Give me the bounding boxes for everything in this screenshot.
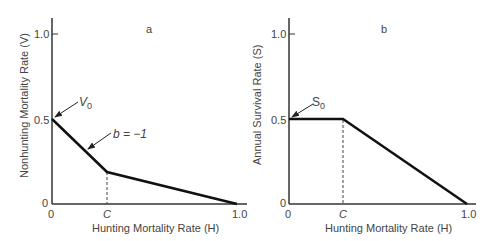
x-tick-label-0: 0: [48, 208, 54, 220]
panel-label: a: [146, 23, 153, 35]
s-curve: [289, 119, 467, 204]
s0-arrow: [292, 104, 313, 117]
slope-arrow: [88, 133, 111, 149]
x-tick-label-0: 0: [285, 208, 291, 220]
x-axis-label: Hunting Mortality Rate (H): [92, 222, 219, 234]
x-tick-label-1: 1.0: [461, 208, 476, 220]
v0-arrow: [55, 102, 78, 117]
panel-a: 1.0 0.5 0 0 C 1.0 a Hunting Mortality Ra…: [18, 18, 247, 234]
x-tick-label-c: C: [339, 208, 347, 220]
y-axis-label: Nonhunting Mortality Rate (V): [18, 33, 30, 178]
y-tick-label-1: 1.0: [271, 28, 286, 40]
x-tick-label-1: 1.0: [232, 208, 247, 220]
figure: 1.0 0.5 0 0 C 1.0 a Hunting Mortality Ra…: [0, 0, 495, 241]
s0-annotation: S0: [312, 95, 325, 111]
x-tick-label-c: C: [103, 208, 111, 220]
y-tick-label-05: 0.5: [34, 114, 49, 126]
panel-label: b: [381, 23, 387, 35]
y-axis-label: Annual Survival Rate (S): [251, 45, 263, 165]
slope-annotation: b = −1: [113, 127, 147, 141]
y-tick-label-05: 0.5: [271, 114, 286, 126]
y-tick-label-1: 1.0: [34, 28, 49, 40]
v0-annotation: V0: [79, 95, 92, 111]
x-axis-label: Hunting Mortality Rate (H): [325, 222, 452, 234]
panel-b: 1.0 0.5 0 0 C 1.0 b Hunting Mortality Ra…: [251, 18, 476, 234]
